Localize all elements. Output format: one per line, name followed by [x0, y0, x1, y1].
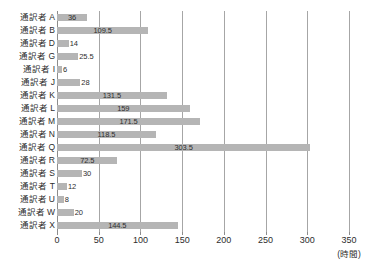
bar-value-label: 144.5 — [108, 222, 126, 230]
bar-value-label: 20 — [75, 209, 83, 217]
x-axis: 050100150200250300350 — [0, 232, 388, 248]
bar-value-label: 72.5 — [80, 157, 94, 165]
bar-value-label: 30 — [83, 170, 91, 178]
category-label: 通訳者 W — [18, 208, 55, 217]
bar-value-label: 109.5 — [94, 27, 112, 35]
bar-value-label: 36 — [68, 14, 76, 22]
bar — [57, 183, 67, 190]
category-label: 通訳者 U — [20, 195, 56, 204]
bar-row: 131.5 — [57, 89, 349, 102]
x-tick-label: 350 — [341, 236, 356, 245]
bar-value-label: 28 — [81, 79, 89, 87]
bar — [57, 196, 64, 203]
bar-row: 109.5 — [57, 24, 349, 37]
y-axis-category-labels: 通訳者 A通訳者 B通訳者 D通訳者 G通訳者 I通訳者 J通訳者 K通訳者 L… — [0, 11, 57, 232]
bar — [57, 170, 82, 177]
x-tick-label: 50 — [94, 236, 104, 245]
bar-row: 144.5 — [57, 219, 349, 232]
category-label: 通訳者 G — [19, 52, 55, 61]
x-tick-label: 300 — [300, 236, 315, 245]
bar-row: 36 — [57, 11, 349, 24]
x-tick-label: 150 — [175, 236, 190, 245]
gridline — [349, 11, 350, 232]
bar-value-label: 25.5 — [79, 53, 93, 61]
bar-row: 303.5 — [57, 141, 349, 154]
bar-row: 6 — [57, 63, 349, 76]
bar-row: 118.5 — [57, 128, 349, 141]
category-label: 通訳者 K — [20, 91, 55, 100]
x-axis-title: (時間) — [337, 250, 361, 259]
x-tick-label: 0 — [54, 236, 59, 245]
category-label: 通訳者 I — [23, 65, 55, 74]
bar-value-label: 8 — [65, 196, 69, 204]
bar-row: 30 — [57, 167, 349, 180]
bar-row: 28 — [57, 76, 349, 89]
bar-row: 8 — [57, 193, 349, 206]
category-label: 通訳者 J — [21, 78, 55, 87]
bar — [57, 66, 62, 73]
bar-value-label: 12 — [68, 183, 76, 191]
bar — [57, 53, 78, 60]
category-label: 通訳者 L — [21, 104, 55, 113]
x-tick-label: 200 — [216, 236, 231, 245]
bar-value-label: 171.5 — [119, 118, 137, 126]
bar — [57, 40, 69, 47]
bar-chart: 通訳者 A通訳者 B通訳者 D通訳者 G通訳者 I通訳者 J通訳者 K通訳者 L… — [0, 0, 388, 271]
bar-value-label: 6 — [63, 66, 67, 74]
bar-value-label: 159 — [117, 105, 129, 113]
bar-row: 171.5 — [57, 115, 349, 128]
category-label: 通訳者 T — [20, 182, 55, 191]
bar-row: 12 — [57, 180, 349, 193]
category-label: 通訳者 X — [20, 221, 55, 230]
category-label: 通訳者 Q — [19, 143, 55, 152]
category-label: 通訳者 R — [20, 156, 56, 165]
x-tick-label: 100 — [133, 236, 148, 245]
bar-series: 36109.51425.5628131.5159171.5118.5303.57… — [57, 11, 349, 232]
bar-row: 159 — [57, 102, 349, 115]
bar-value-label: 14 — [70, 40, 78, 48]
category-label: 通訳者 S — [20, 169, 55, 178]
plot-area: 36109.51425.5628131.5159171.5118.5303.57… — [57, 11, 349, 232]
bar-row: 14 — [57, 37, 349, 50]
bar-row: 25.5 — [57, 50, 349, 63]
category-label: 通訳者 A — [20, 13, 55, 22]
bar-row: 72.5 — [57, 154, 349, 167]
bar-value-label: 131.5 — [103, 92, 121, 100]
bar-value-label: 303.5 — [174, 144, 192, 152]
bar — [57, 209, 74, 216]
x-tick-label: 250 — [258, 236, 273, 245]
category-label: 通訳者 D — [20, 39, 56, 48]
category-label: 通訳者 B — [20, 26, 55, 35]
category-label: 通訳者 N — [20, 130, 56, 139]
category-label: 通訳者 M — [19, 117, 55, 126]
bar-row: 20 — [57, 206, 349, 219]
bar — [57, 79, 80, 86]
bar-value-label: 118.5 — [98, 131, 116, 139]
